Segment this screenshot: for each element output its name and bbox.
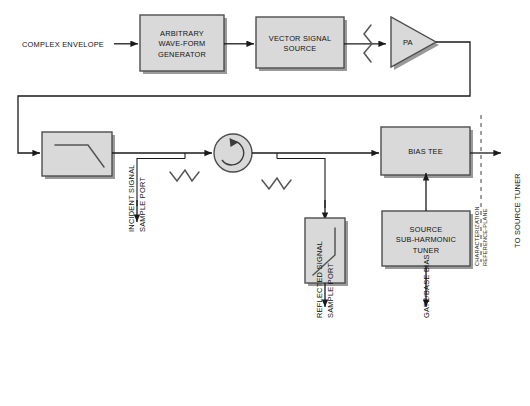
- awg-label-line3: GENERATOR: [158, 50, 206, 59]
- directional-coupler-zigzag-icon-incident: [170, 170, 199, 181]
- awg-label-line1: ARBITRARY: [160, 29, 204, 38]
- pa-block[interactable]: [391, 17, 436, 67]
- vss-block[interactable]: [256, 17, 344, 68]
- reference-plane-label-line1: CHARACTERIZATION: [474, 206, 480, 266]
- directional-coupler-zigzag-icon-reflected: [262, 178, 291, 189]
- vss-label-line1: VECTOR SIGNAL: [269, 34, 331, 43]
- gate-base-bias-label: GATE/BASE BIAS: [422, 254, 431, 318]
- incident-port-label-line1: INCIDENT SIGNAL: [127, 164, 136, 232]
- source-tuner-label-line3: TUNER: [413, 246, 439, 255]
- vss-label-line2: SOURCE: [284, 44, 317, 53]
- to-source-tuner-label: TO SOURCE TUNER: [513, 173, 522, 248]
- complex-envelope-label: COMPLEX ENVELOPE: [22, 40, 104, 49]
- lpf-incident-block[interactable]: [42, 132, 112, 176]
- source-tuner-label-line1: SOURCE: [410, 225, 443, 234]
- reference-plane-label-line2: REFERENCE-PLANE: [482, 208, 488, 266]
- reflected-port-label-line2: SAMPLE PORT: [326, 263, 335, 318]
- awg-label-line2: WAVE-FORM: [159, 39, 206, 48]
- block-diagram-svg: COMPLEX ENVELOPE ARBITRARY WAVE-FORM GEN…: [0, 0, 530, 406]
- pa-label: PA: [403, 38, 414, 47]
- source-tuner-label-line2: SUB-HARMONIC: [396, 235, 457, 244]
- to-source-tuner-text: TO SOURCE TUNER: [513, 173, 522, 248]
- wire-reflected-coupler-tap: [277, 159, 325, 209]
- block-diagram-canvas: COMPLEX ENVELOPE ARBITRARY WAVE-FORM GEN…: [0, 0, 530, 406]
- incident-port-label-line2: SAMPLE PORT: [138, 177, 147, 232]
- reference-plane-label: CHARACTERIZATION REFERENCE-PLANE: [474, 206, 488, 266]
- bias-tee-label: BIAS TEE: [408, 147, 443, 156]
- gate-base-bias-text: GATE/BASE BIAS: [422, 254, 431, 318]
- reflected-port-label-line1: REFLECTED SIGNAL: [315, 241, 324, 318]
